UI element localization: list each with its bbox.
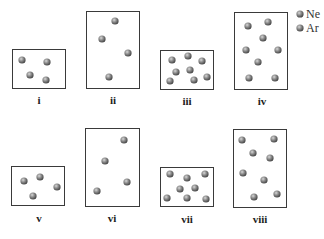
container-vi: vi <box>86 129 140 225</box>
gas-particle-icon <box>198 57 205 64</box>
gas-particle-icon <box>266 154 273 161</box>
gas-particle-icon <box>163 194 170 201</box>
gas-particle-icon <box>29 192 36 199</box>
gas-particle-icon <box>20 177 27 184</box>
gas-particle-icon <box>249 149 256 156</box>
gas-particle-icon <box>123 178 130 185</box>
gas-particle-icon <box>36 173 43 180</box>
gas-particle-icon <box>239 169 246 176</box>
gas-particle-icon <box>172 68 179 75</box>
gas-particle-icon <box>245 74 252 81</box>
legend: NeAr <box>296 7 320 35</box>
gas-particle-icon <box>120 136 127 143</box>
gas-particle-icon <box>93 187 100 194</box>
gas-particle-icon <box>264 18 271 25</box>
gas-particle-icon <box>183 194 190 201</box>
container-ii: ii <box>87 12 140 107</box>
gas-particle-icon <box>183 174 190 181</box>
container-label: iv <box>258 95 267 107</box>
legend-swatch-icon <box>296 24 303 31</box>
gas-particle-icon <box>184 52 191 59</box>
gas-particle-icon <box>26 71 33 78</box>
gas-particle-icon <box>186 66 193 73</box>
gas-particle-icon <box>42 76 49 83</box>
gas-particle-icon <box>271 74 278 81</box>
container-viii: viii <box>234 130 287 226</box>
gas-particle-icon <box>274 46 281 53</box>
containers: iiiiiiivvviviiviii <box>12 12 288 226</box>
container-label: iii <box>182 95 191 107</box>
gas-particle-icon <box>176 185 183 192</box>
gas-particle-icon <box>105 73 112 80</box>
legend-label: Ar <box>306 21 319 35</box>
gas-particle-icon <box>201 170 208 177</box>
gas-particle-icon <box>124 49 131 56</box>
gas-particle-icon <box>260 176 267 183</box>
container-iii: iii <box>161 51 214 108</box>
gas-particle-icon <box>242 46 249 53</box>
gas-particle-icon <box>202 195 209 202</box>
legend-item-ar: Ar <box>296 21 318 35</box>
gas-particle-icon <box>273 190 280 197</box>
container-label: vii <box>181 213 193 225</box>
gas-particle-icon <box>166 77 173 84</box>
container-v: v <box>12 167 65 225</box>
gas-particles-diagram: iiiiiiivvviviiviii NeAr <box>0 0 324 239</box>
container-box <box>13 50 66 89</box>
gas-particle-icon <box>250 193 257 200</box>
container-label: i <box>37 94 40 106</box>
gas-particle-icon <box>244 22 251 29</box>
gas-particle-icon <box>18 56 25 63</box>
container-vii: vii <box>161 168 214 226</box>
gas-particle-icon <box>238 136 245 143</box>
gas-particle-icon <box>190 76 197 83</box>
gas-particle-icon <box>203 73 210 80</box>
container-label: vi <box>108 212 117 224</box>
container-box <box>86 129 140 207</box>
container-label: v <box>36 212 42 224</box>
legend-label: Ne <box>306 7 320 21</box>
gas-particle-icon <box>43 58 50 65</box>
container-i: i <box>13 50 66 107</box>
gas-particle-icon <box>254 58 261 65</box>
legend-item-ne: Ne <box>296 7 320 21</box>
gas-particle-icon <box>166 170 173 177</box>
gas-particle-icon <box>53 183 60 190</box>
gas-particle-icon <box>270 135 277 142</box>
gas-particle-icon <box>111 17 118 24</box>
container-label: viii <box>253 213 268 225</box>
container-iv: iv <box>235 13 288 108</box>
gas-particle-icon <box>168 56 175 63</box>
gas-particle-icon <box>259 34 266 41</box>
container-label: ii <box>110 94 116 106</box>
gas-particle-icon <box>101 157 108 164</box>
legend-swatch-icon <box>296 10 303 17</box>
gas-particle-icon <box>191 184 198 191</box>
gas-particle-icon <box>98 35 105 42</box>
